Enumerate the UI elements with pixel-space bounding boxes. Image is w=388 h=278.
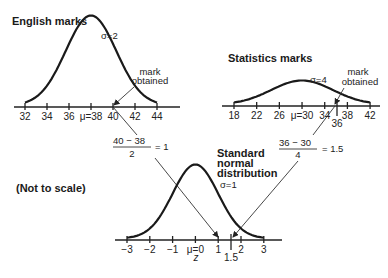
statistics-formula-result: = 1.5: [322, 143, 343, 154]
statistics-tick-label: 22: [251, 110, 263, 121]
standard-title-3: distribution: [217, 167, 278, 179]
statistics-mark-arrow: [335, 88, 344, 104]
statistics-formula-denominator: 4: [295, 149, 300, 160]
english-formula-numerator: 40 − 38: [113, 135, 145, 146]
english-tick-label: 42: [129, 111, 141, 122]
statistics-ticks: 182226μ=30343842: [228, 102, 376, 121]
standard-tick-label: −1: [167, 244, 179, 255]
standard-tick-label: 1: [215, 244, 221, 255]
english-mark-arrow: [114, 87, 134, 105]
statistics-tick-label: μ=30: [291, 110, 314, 121]
standard-mark-tick-label: 1.5: [224, 252, 238, 263]
statistics-tick-label: 38: [342, 110, 354, 121]
english-tick-label: μ=38: [80, 111, 103, 122]
statistics-tick-label: 18: [228, 110, 240, 121]
english-formula-denominator: 2: [129, 148, 134, 159]
standard-tick-label: −3: [121, 244, 133, 255]
statistics-tick-label: 42: [365, 110, 377, 121]
z-score-diagram: 323436μ=38404244 English marks σ=2 mark …: [0, 0, 388, 278]
english-tick-label: 36: [63, 111, 75, 122]
english-tick-label: 32: [19, 111, 31, 122]
statistics-title: Statistics marks: [228, 52, 312, 64]
english-formula-result: = 1: [155, 141, 168, 152]
english-sigma-label: σ=2: [101, 30, 118, 41]
statistics-tick-label: 26: [274, 110, 286, 121]
english-tick-label: 34: [41, 111, 53, 122]
english-distribution: 323436μ=38404244 English marks σ=2 mark …: [12, 15, 218, 237]
english-mark-label-2: obtained: [132, 75, 168, 86]
standard-tick-label: 2: [238, 244, 244, 255]
statistics-distribution: 182226μ=30343842 36 Statistics marks σ=4…: [222, 52, 380, 237]
english-title: English marks: [12, 15, 87, 27]
statistics-mark-tick-label: 36: [331, 118, 343, 129]
english-curve: [25, 16, 157, 103]
english-ticks: 323436μ=38404244: [19, 103, 163, 122]
statistics-formula-numerator: 36 − 30: [279, 137, 311, 148]
statistics-mark-label-2: obtained: [342, 76, 378, 87]
standard-sigma-label: σ=1: [220, 179, 237, 190]
standard-distribution: −3−2−1μ=0123 1.5 z Standard normal distr…: [115, 147, 282, 263]
standard-tick-label: 3: [261, 244, 267, 255]
standard-axis-label: z: [193, 252, 199, 263]
english-tick-label: 44: [151, 111, 163, 122]
not-to-scale-note: (Not to scale): [16, 182, 86, 194]
statistics-sigma-label: σ=4: [310, 74, 327, 85]
standard-tick-label: −2: [144, 244, 156, 255]
